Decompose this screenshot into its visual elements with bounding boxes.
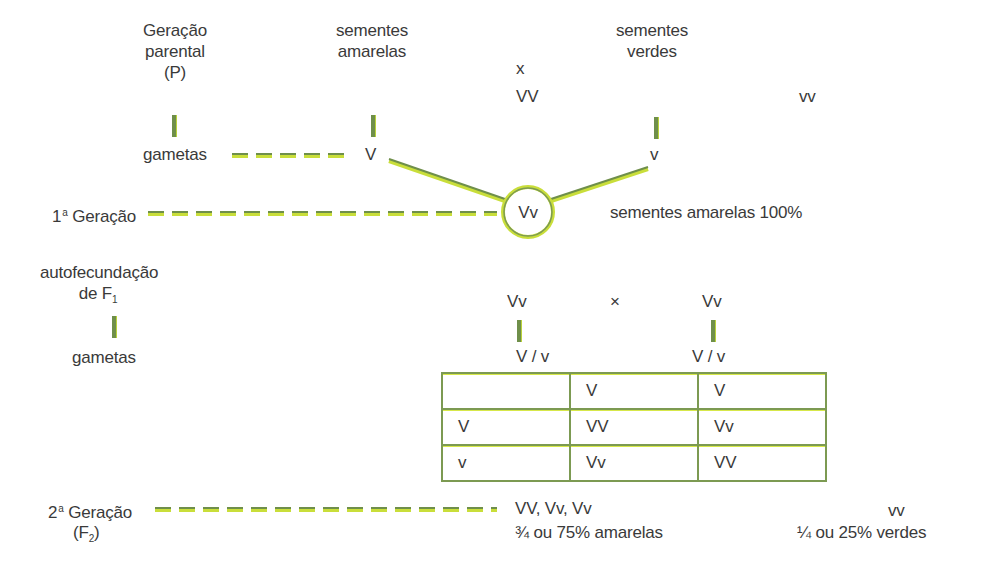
selfing-parent1-genotype: Vv	[507, 291, 526, 312]
punnett-row: v Vv VV	[442, 445, 826, 481]
gamete-line-right	[551, 169, 648, 201]
tick-selfing-parent1	[517, 320, 521, 342]
punnett-cell: Vv	[570, 445, 698, 481]
selfing-gametes-2: V / v	[692, 346, 725, 367]
selfing-gametes-1: V / v	[516, 346, 549, 367]
parent1-phenotype: sementes amarelas	[320, 20, 424, 62]
punnett-cell: Vv	[698, 409, 826, 445]
f2-label: 2a Geração	[48, 498, 132, 523]
punnett-row: V V	[442, 373, 826, 409]
parental-label: Geração parental (P)	[140, 20, 210, 83]
gametes-label-f1: gametas	[72, 347, 136, 368]
tick-parent2	[654, 117, 658, 139]
f2-recessive-genotype: vv	[888, 500, 905, 521]
f2-dominant-genotypes: VV, Vv, Vv	[515, 498, 591, 519]
tick-parent1	[371, 115, 375, 137]
parent2-genotype: vv	[799, 86, 816, 107]
punnett-cell: VV	[698, 445, 826, 481]
gamete-1: V	[365, 144, 376, 165]
f1-genotype: Vv	[508, 202, 548, 223]
gametes-label-p: gametas	[143, 144, 207, 165]
selfing-label: autofecundação de F1	[40, 262, 156, 310]
f2-dominant-ratio: ¾ ou 75% amarelas	[515, 522, 663, 543]
cross-symbol-f1: ×	[610, 291, 620, 312]
punnett-cell: V	[698, 373, 826, 409]
parent1-genotype: VV	[516, 86, 538, 107]
tick-parental	[172, 115, 176, 137]
punnett-cell: V	[570, 373, 698, 409]
punnett-cell: V	[442, 409, 570, 445]
punnett-row: V VV Vv	[442, 409, 826, 445]
punnett-cell: VV	[570, 409, 698, 445]
f1-label: 1a Geração	[52, 202, 136, 227]
f2-label-sub: (F2)	[73, 522, 100, 549]
gamete-2: v	[650, 144, 658, 165]
punnett-cell: v	[442, 445, 570, 481]
punnett-cell	[442, 373, 570, 409]
tick-selfing-parent2	[711, 320, 715, 342]
f2-recessive-ratio: ¼ ou 25% verdes	[797, 522, 926, 543]
tick-selfing	[112, 316, 116, 338]
gamete-line-left	[389, 161, 505, 201]
parent2-phenotype: sementes verdes	[600, 20, 704, 62]
f1-phenotype: sementes amarelas 100%	[610, 202, 802, 223]
punnett-square: V V V VV Vv v Vv VV	[441, 372, 827, 482]
selfing-parent2-genotype: Vv	[702, 291, 721, 312]
cross-symbol-p: x	[516, 58, 524, 79]
